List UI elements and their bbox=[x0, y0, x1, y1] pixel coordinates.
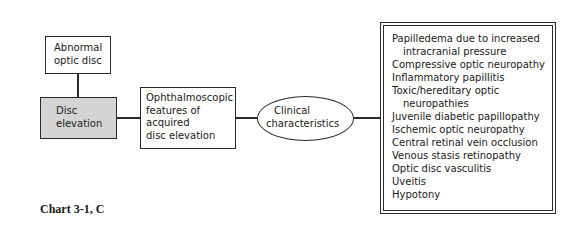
causes-list: Papilledema due to increased intracrania… bbox=[383, 25, 553, 211]
list-item: Ischemic optic neuropathy bbox=[392, 123, 552, 136]
node-label-line: Disc bbox=[56, 105, 116, 118]
connector-disc-to-ophth bbox=[117, 117, 140, 119]
node-disc-elevation: Disc elevation bbox=[40, 97, 117, 139]
list-item: Uveitis bbox=[392, 175, 552, 188]
chart-caption: Chart 3-1, C bbox=[40, 202, 104, 217]
list-item: Venous stasis retinopathy bbox=[392, 149, 552, 162]
list-item: Hypotony bbox=[392, 188, 552, 201]
list-item-continuation: neuropathies bbox=[392, 97, 552, 110]
list-item: Inflammatory papillitis bbox=[392, 71, 552, 84]
node-label-line: characteristics bbox=[266, 118, 353, 131]
node-label-line: elevation bbox=[56, 118, 116, 131]
connector-clinical-to-list bbox=[354, 117, 380, 119]
node-ophthalmoscopic-features: Ophthalmoscopic features of acquired dis… bbox=[140, 87, 236, 149]
list-item: Optic disc vasculitis bbox=[392, 162, 552, 175]
connector-abnormal-to-disc bbox=[77, 74, 79, 97]
node-label-line: features of bbox=[146, 105, 235, 118]
list-item: Compressive optic neuropathy bbox=[392, 58, 552, 71]
list-item: Toxic/hereditary optic bbox=[392, 84, 552, 97]
causes-list-box: Papilledema due to increased intracrania… bbox=[380, 22, 556, 214]
list-item-continuation: intracranial pressure bbox=[392, 45, 552, 58]
list-item: Juvenile diabetic papillopathy bbox=[392, 110, 552, 123]
node-clinical-characteristics: Clinical characteristics bbox=[257, 96, 354, 141]
node-abnormal-optic-disc: Abnormal optic disc bbox=[45, 36, 111, 74]
list-item: Papilledema due to increased bbox=[392, 32, 552, 45]
node-label-line: Ophthalmoscopic bbox=[146, 92, 235, 105]
node-label-line: disc elevation bbox=[146, 130, 235, 143]
node-label-line: acquired bbox=[146, 117, 235, 130]
node-label-line: optic disc bbox=[54, 55, 110, 68]
connector-ophth-to-clinical bbox=[236, 117, 257, 119]
node-label-line: Abnormal bbox=[54, 42, 110, 55]
list-item: Central retinal vein occlusion bbox=[392, 136, 552, 149]
node-label-line: Clinical bbox=[266, 105, 353, 118]
